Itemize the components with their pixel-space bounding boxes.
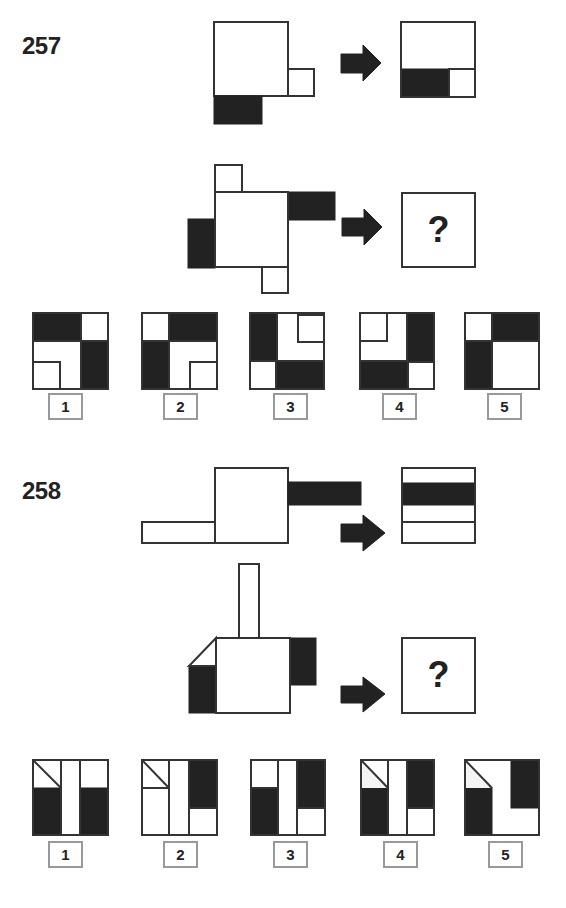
option-label[interactable]: 1 [48, 393, 83, 420]
option-label[interactable]: 2 [163, 841, 198, 868]
puzzle-257-option-4[interactable] [360, 313, 434, 389]
right-arrow-icon [341, 677, 385, 712]
puzzle-258-question [189, 564, 316, 713]
puzzle-257-option-1[interactable] [33, 313, 108, 389]
puzzle-257-option-2[interactable] [142, 313, 217, 389]
puzzle-257-question [188, 165, 335, 293]
option-label[interactable]: 3 [273, 841, 308, 868]
puzzle-number: 257 [22, 32, 61, 60]
option-label[interactable]: 5 [488, 841, 523, 868]
puzzle-257-example-result [401, 22, 475, 97]
option-label[interactable]: 2 [163, 393, 198, 420]
question-mark: ? [402, 657, 475, 693]
puzzle-258-example-result [402, 468, 475, 543]
puzzle-258-option-2[interactable] [142, 760, 217, 835]
option-label[interactable]: 4 [383, 841, 418, 868]
puzzle-257-option-3[interactable] [250, 313, 324, 389]
puzzle-258-option-1[interactable] [33, 760, 108, 835]
right-arrow-icon [341, 515, 385, 551]
option-label[interactable]: 5 [487, 393, 522, 420]
option-label[interactable]: 4 [382, 393, 417, 420]
puzzle-number: 258 [22, 477, 61, 505]
puzzle-257-example [214, 22, 314, 124]
option-label[interactable]: 3 [273, 393, 308, 420]
puzzle-258-option-4[interactable] [361, 760, 434, 835]
right-arrow-icon [341, 45, 381, 81]
question-mark: ? [402, 212, 475, 248]
puzzle-258-option-5[interactable] [465, 760, 539, 835]
puzzle-drawings: .w { fill:#fff; stroke:#333; stroke-widt… [0, 0, 566, 908]
right-arrow-icon [342, 209, 382, 245]
puzzle-257-option-5[interactable] [465, 313, 539, 389]
puzzle-258-option-3[interactable] [251, 760, 325, 835]
option-label[interactable]: 1 [48, 841, 83, 868]
puzzle-258-example [142, 468, 361, 543]
